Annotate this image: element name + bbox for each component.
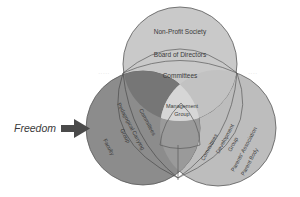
top-middle-label: Board of Directors [154,51,207,58]
freedom-label: Freedom [14,122,56,134]
top-outer-label: Non-Profit Society [154,28,207,36]
top-inner-label: Committees [163,72,198,79]
venn-diagram: ····· ···· [0,0,300,197]
ghost-text-right: ···· [248,70,257,77]
center-label-line2: Group [174,111,189,117]
freedom-arrow [61,119,90,138]
center-label-line1: Management [166,103,199,109]
ghost-text-left: ····· [98,70,110,77]
